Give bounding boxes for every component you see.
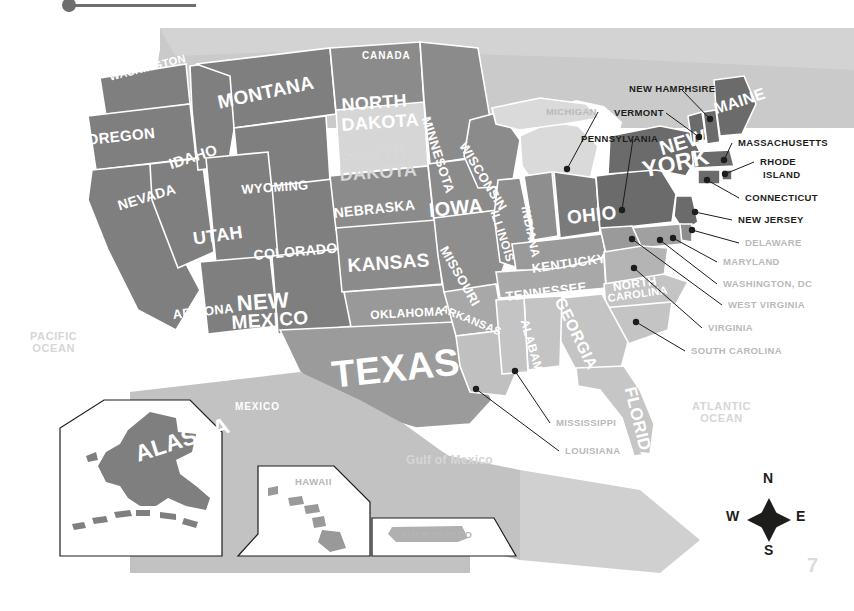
leader-line-new-hampshire — [681, 89, 710, 119]
callout-dot-mississippi — [512, 368, 518, 374]
leader-line-vermont — [666, 113, 699, 137]
leader-line-michigan — [567, 112, 598, 169]
callout-dot-maryland — [670, 235, 676, 241]
callout-dot-pennsylvania — [619, 207, 625, 213]
page-number: 7 — [807, 554, 818, 577]
leader-line-rhode-island-1 — [725, 162, 754, 174]
map-page: the United States — [0, 0, 854, 611]
leader-line-south-carolina — [636, 322, 685, 351]
callout-dot-louisiana — [473, 386, 479, 392]
callout-dot-new-hampshire — [707, 116, 713, 122]
leader-line-pennsylvania — [622, 139, 633, 210]
callout-dot-west-virginia — [629, 236, 635, 242]
leader-line-west-virginia — [632, 239, 722, 305]
compass-east: E — [796, 508, 805, 524]
callout-dot-vermont — [696, 134, 702, 140]
callout-dot-virginia — [631, 265, 637, 271]
callout-dot-new-jersey — [692, 209, 698, 215]
callout-dot-washington-dc — [657, 237, 663, 243]
compass-west: W — [726, 508, 739, 524]
callout-dot-delaware — [689, 227, 695, 233]
leader-line-maryland — [673, 238, 717, 262]
leader-line-delaware — [692, 230, 739, 243]
leader-line-new-jersey — [695, 212, 732, 220]
callout-dot-rhode-island-1 — [722, 171, 728, 177]
leader-line-virginia — [634, 268, 702, 328]
callout-dot-connecticut — [704, 177, 710, 183]
callout-dot-south-carolina — [633, 319, 639, 325]
callout-dot-michigan — [564, 166, 570, 172]
leader-line-louisiana — [476, 389, 559, 451]
compass-north: N — [763, 470, 773, 486]
leader-line-mississippi — [515, 371, 550, 423]
callout-dot-massachusetts — [721, 157, 727, 163]
compass-south: S — [764, 542, 773, 558]
leader-line-connecticut — [707, 180, 739, 198]
